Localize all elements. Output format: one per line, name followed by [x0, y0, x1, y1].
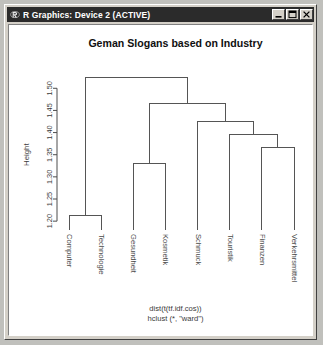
leaf-label: Verkehrsmittel	[290, 234, 299, 282]
close-icon	[302, 10, 311, 19]
y-axis-tick-label: 1.50	[45, 81, 54, 95]
plot-title: Geman Slogans based on Industry	[88, 37, 262, 49]
window-titlebar[interactable]: R Graphics: Device 2 (ACTIVE)	[7, 7, 314, 22]
y-axis-title: Height	[22, 143, 31, 166]
y-axis-tick-label: 1.30	[45, 170, 54, 184]
desktop-background: R Graphics: Device 2 (ACTIVE) Geman Slog…	[0, 0, 323, 345]
dendrogram-branch	[85, 78, 187, 216]
leaf-label: Technologie	[97, 234, 106, 275]
maximize-icon	[288, 10, 297, 19]
dendrogram-branch	[69, 216, 101, 230]
dendrogram-branches	[69, 78, 294, 230]
plot-subtitle-line: dist(t(tf.idf.cos))	[149, 304, 202, 313]
plot-canvas: Geman Slogans based on Industry1.201.251…	[8, 24, 313, 336]
leaf-label: Finanzen	[258, 234, 267, 265]
y-axis-tick-label: 1.20	[45, 214, 54, 228]
minimize-button[interactable]	[272, 9, 285, 20]
r-graphics-window: R Graphics: Device 2 (ACTIVE) Geman Slog…	[4, 4, 317, 340]
y-axis-tick-label: 1.25	[45, 192, 54, 206]
y-axis-tick-label: 1.40	[45, 125, 54, 139]
r-logo-icon	[10, 10, 20, 20]
maximize-button[interactable]	[286, 9, 299, 20]
leaf-label: Gesundheit	[129, 234, 138, 274]
dendrogram-branch	[262, 147, 294, 230]
dendrogram-branch	[149, 103, 225, 163]
leaf-label: Computer	[65, 234, 74, 268]
plot-subtitle-line: hclust (*, "ward")	[147, 314, 204, 323]
dendrogram-branch	[230, 134, 278, 230]
dendrogram-branch	[198, 122, 254, 230]
leaf-label: Touristik	[226, 234, 235, 262]
minimize-icon	[274, 10, 283, 19]
y-axis-tick-label: 1.35	[45, 148, 54, 162]
dendrogram-plot: Geman Slogans based on Industry1.201.251…	[9, 25, 312, 335]
leaf-label: Schmuck	[194, 234, 203, 265]
window-title: R Graphics: Device 2 (ACTIVE)	[23, 10, 272, 20]
y-axis-tick-label: 1.45	[45, 103, 54, 117]
dendrogram-branch	[133, 164, 165, 230]
close-button[interactable]	[300, 9, 313, 20]
leaf-label: Kosmetik	[161, 234, 170, 265]
